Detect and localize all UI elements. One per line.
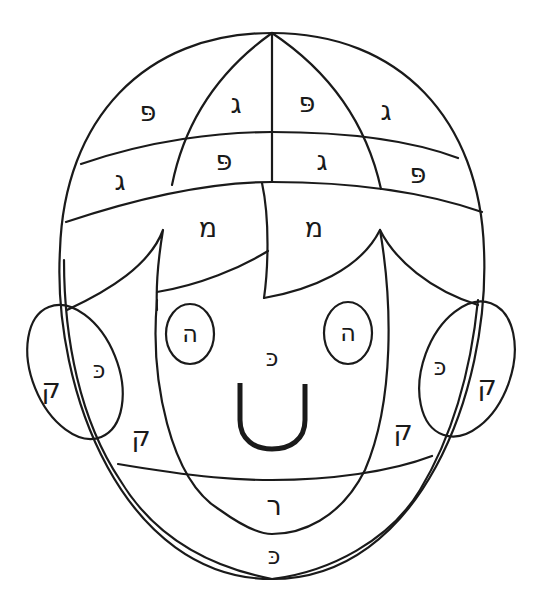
label-hair-left: מ <box>199 212 217 243</box>
label-cap-top-left-outer: פּ <box>140 96 157 127</box>
jaw-band <box>118 456 432 480</box>
label-chin-band: כּ <box>268 542 281 570</box>
label-cap-top-left-inner: ג <box>230 88 241 119</box>
mouth <box>240 383 305 449</box>
hair-left-spike <box>67 230 163 310</box>
label-cheek-right: ק <box>393 415 412 446</box>
hair-part <box>262 183 268 298</box>
label-neck: ר <box>266 490 281 521</box>
label-nose: כּ <box>266 344 279 372</box>
label-eye-right: ה <box>340 319 356 347</box>
label-ear-right-outer: ק <box>477 370 496 401</box>
label-ear-left-outer: ק <box>41 373 60 404</box>
label-cheek-left: ק <box>131 421 150 452</box>
coloring-page: פּ ג פּ ג ג פּ ג פּ מ מ ה ה כּ ק כּ כּ ק… <box>0 0 545 605</box>
label-cap-band-left-outer: ג <box>114 165 125 196</box>
label-ear-left-inner: כּ <box>93 356 106 384</box>
label-eye-left: ה <box>182 320 198 348</box>
label-cap-band-left-inner: פּ <box>216 145 233 176</box>
hair-left-fringe <box>157 251 268 292</box>
hair-right-spike <box>380 230 478 305</box>
label-cap-band-right-inner: ג <box>316 145 327 176</box>
face-drawing: פּ ג פּ ג ג פּ ג פּ מ מ ה ה כּ ק כּ כּ ק… <box>0 0 545 605</box>
label-cap-top-right-inner: פּ <box>299 87 316 118</box>
label-ear-right-inner: כּ <box>434 353 447 381</box>
cap-band-upper <box>81 132 458 164</box>
label-cap-band-right-outer: פּ <box>410 158 427 189</box>
label-cap-top-right-outer: ג <box>380 95 391 126</box>
label-hair-right: מ <box>305 212 323 243</box>
